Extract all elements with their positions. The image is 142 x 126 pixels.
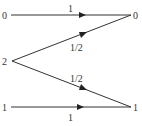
weight-bottom: 1: [68, 112, 73, 123]
edge-mid-to-bottom: [12, 61, 131, 107]
weight-top: 1: [68, 3, 73, 14]
arrow-mid-top-icon: [79, 32, 87, 38]
arrow-mid-bottom-icon: [79, 84, 87, 90]
arrow-bottom-icon: [77, 104, 84, 110]
weight-mid-bottom: 1/2: [70, 73, 83, 84]
arrow-top-icon: [79, 12, 86, 18]
flow-diagram: 0 2 1 0 1 1 1/2 1/2 1: [0, 0, 142, 126]
weight-mid-top: 1/2: [70, 42, 83, 53]
edge-mid-to-top: [12, 15, 131, 61]
node-bottom-left: 1: [2, 102, 7, 113]
node-top-right: 0: [133, 10, 138, 21]
node-mid-left: 2: [2, 56, 7, 67]
node-top-left: 0: [2, 10, 7, 21]
node-bottom-right: 1: [133, 102, 138, 113]
